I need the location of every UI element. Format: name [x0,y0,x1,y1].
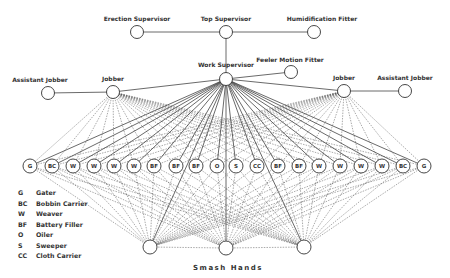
legend-label: Sweeper [36,242,67,253]
jobber-worker-link [30,91,344,166]
supervisor-worker-link [226,79,299,166]
node-label: Erection Supervisor [104,15,171,23]
worker-code: O [215,163,220,169]
worker-smash-link [226,166,236,248]
worker-smash-link [304,166,340,247]
legend-label: Bobbin Carrier [36,200,88,211]
node-assistant-jobber [42,87,55,100]
worker-code: W [316,163,322,169]
worker-smash-link [150,166,361,247]
supervisor-worker-link [226,79,424,166]
node-label: Assistant Jobber [12,76,68,84]
supervisor-worker-link [226,79,340,166]
supervisor-worker-link [52,79,226,166]
node-label: Work Supervisor [198,61,254,69]
legend-code: G [18,189,36,200]
node-label: Jobber [101,75,124,83]
worker-code: W [70,163,76,169]
worker-code: G [422,163,427,169]
jobber-worker-link [257,91,344,166]
legend: GGater BCBobbin Carrier WWeaver BFBatter… [18,189,88,263]
legend-code: BC [18,200,36,211]
worker-code: W [91,163,97,169]
jobber-worker-link [344,91,403,166]
feeler-link [226,72,291,79]
legend-code: O [18,231,36,242]
legend-label: Oiler [36,231,53,242]
worker-smash-link [304,166,403,247]
worker-smash-link [94,166,150,247]
supervisor-worker-link [30,79,226,166]
legend-item: BCBobbin Carrier [18,200,88,211]
jobber-worker-link [344,91,424,166]
smash-hands-caption: Smash Hands [193,264,263,272]
worker-smash-link [257,166,304,247]
jobber-worker-link [113,92,134,166]
legend-label: Cloth Carrier [36,252,81,263]
legend-label: Gater [36,189,56,200]
worker-smash-link [304,166,382,247]
node-erection [131,26,144,39]
worker-smash-link [150,166,154,247]
legend-item: BFBattery Filler [18,221,88,232]
worker-smash-link [114,166,150,247]
jobber-worker-link [113,92,340,166]
node-smash-hand [297,240,311,254]
worker-smash-link [226,166,382,248]
legend-item: GGater [18,189,88,200]
node-jobber [338,85,351,98]
worker-smash-link [304,166,361,247]
node-jobber [107,86,120,99]
worker-code: BF [274,163,282,169]
worker-smash-link [94,166,226,248]
assistant-link [48,92,113,93]
jobber-worker-link [30,92,113,166]
worker-smash-link [114,166,304,247]
node-work-supervisor [220,73,233,86]
legend-item: WWeaver [18,210,88,221]
worker-smash-link [226,166,424,248]
worker-code: W [337,163,343,169]
node-label: Feeler Motion Fitter [256,56,324,63]
jobber-worker-link [134,91,344,166]
jobber-worker-link [278,91,344,166]
worker-smash-link [299,166,304,247]
node-top [220,26,233,39]
legend-code: BF [18,221,36,232]
legend-label: Weaver [36,210,63,221]
worker-code: BC [48,163,56,169]
worker-smash-link [226,166,403,248]
node-label: Jobber [332,74,355,82]
smash-link [226,247,304,248]
node-label: Humidification Fitter [287,15,357,22]
worker-smash-link [150,166,424,247]
worker-code: W [379,163,385,169]
worker-code: W [111,163,117,169]
legend-code: S [18,242,36,253]
node-smash-hand [143,240,157,254]
worker-smash-link [226,166,299,248]
legend-item: CCCloth Carrier [18,252,88,263]
legend-item: SSweeper [18,242,88,253]
worker-code: W [131,163,137,169]
legend-label: Battery Filler [36,221,83,232]
worker-smash-link [217,166,304,247]
smash-link [150,247,226,248]
legend-code: W [18,210,36,221]
worker-code: W [358,163,364,169]
worker-code: BF [295,163,303,169]
worker-code: BF [150,163,158,169]
jobber-worker-link [52,92,113,166]
worker-smash-link [94,166,304,247]
node-feeler-motion-fitter [285,66,298,79]
legend-code: CC [18,252,36,263]
worker-smash-link [114,166,226,248]
worker-smash-link [176,166,226,248]
worker-code: BF [172,163,180,169]
node-humid [308,26,321,39]
node-smash-hand [219,241,233,255]
worker-code: S [234,163,238,169]
legend-item: OOiler [18,231,88,242]
worker-code: CC [253,163,261,169]
worker-smash-link [154,166,226,248]
